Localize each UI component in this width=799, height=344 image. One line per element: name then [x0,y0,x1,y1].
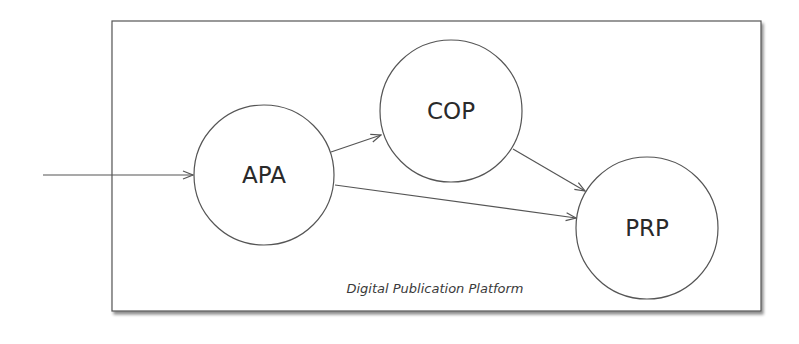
node-apa-label: APA [242,162,286,188]
node-prp-label: PRP [625,215,669,241]
node-prp: PRP [576,157,718,299]
node-apa: APA [194,105,334,245]
node-cop-label: COP [427,98,475,124]
platform-label: Digital Publication Platform [346,281,523,296]
node-cop: COP [380,40,522,182]
diagram-canvas: APA COP PRP Digital Publication Platform [0,0,799,344]
